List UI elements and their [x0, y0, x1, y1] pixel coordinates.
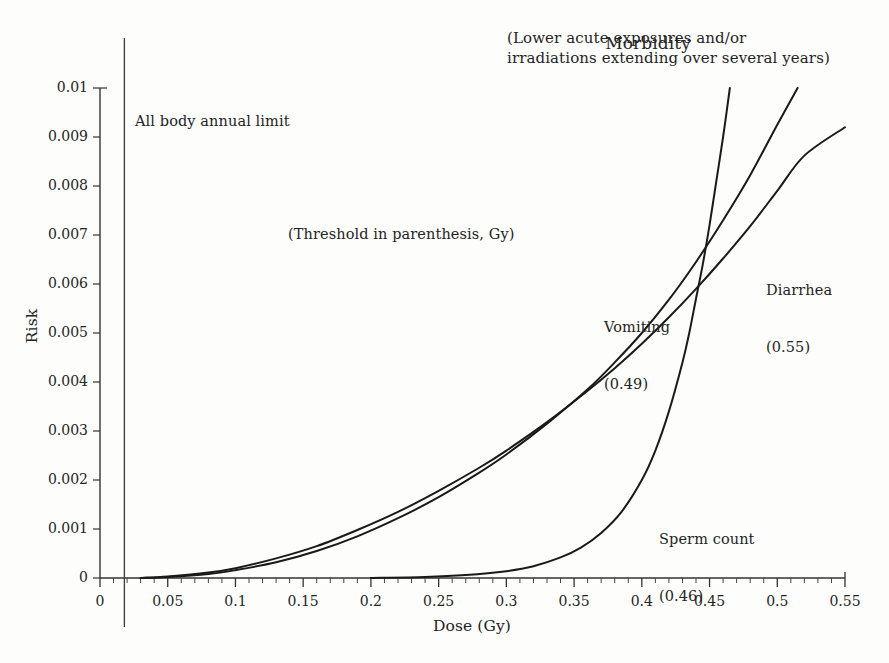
y-tick-label: 0.004 [18, 373, 88, 389]
series-label-vomiting-name: Vomiting [604, 318, 670, 337]
y-tick-label: 0.005 [18, 324, 88, 340]
x-tick-label: 0.2 [341, 593, 401, 609]
x-tick-label: 0.5 [747, 593, 807, 609]
x-tick-label: 0.35 [544, 593, 604, 609]
y-tick-label: 0.001 [18, 520, 88, 536]
y-tick-label: 0.01 [18, 79, 88, 95]
y-tick-label: 0.009 [18, 128, 88, 144]
plot-canvas [0, 0, 889, 663]
x-tick-label: 0.25 [409, 593, 469, 609]
x-tick-label: 0.05 [138, 593, 198, 609]
x-tick-label: 0.15 [273, 593, 333, 609]
series-label-diarrhea-threshold: (0.55) [766, 338, 832, 357]
series-label-vomiting-threshold: (0.49) [604, 375, 670, 394]
y-tick-label: 0.003 [18, 422, 88, 438]
annual-limit-label: All body annual limit [135, 113, 290, 129]
x-tick-label: 0.45 [680, 593, 740, 609]
series-label-vomiting: Vomiting (0.49) [604, 280, 670, 432]
chart-subtitle: (Lower acute exposures and/or irradiatio… [507, 28, 837, 68]
series-label-sperm-count-name: Sperm count [659, 530, 755, 549]
threshold-note: (Threshold in parenthesis, Gy) [288, 226, 515, 242]
series-label-sperm-count: Sperm count (0.46) [659, 492, 755, 644]
x-tick-label: 0.3 [476, 593, 536, 609]
y-tick-label: 0.006 [18, 275, 88, 291]
x-tick-label: 0.1 [205, 593, 265, 609]
y-tick-label: 0.002 [18, 471, 88, 487]
y-tick-label: 0 [18, 569, 88, 585]
series-label-diarrhea-name: Diarrhea [766, 281, 832, 300]
chart-figure: Morbidity (Lower acute exposures and/or … [0, 0, 889, 663]
y-tick-label: 0.008 [18, 177, 88, 193]
y-tick-label: 0.007 [18, 226, 88, 242]
x-tick-label: 0.55 [815, 593, 875, 609]
series-label-diarrhea: Diarrhea (0.55) [766, 243, 832, 395]
x-tick-label: 0.4 [612, 593, 672, 609]
x-tick-label: 0 [70, 593, 130, 609]
x-axis-title: Dose (Gy) [433, 617, 511, 635]
